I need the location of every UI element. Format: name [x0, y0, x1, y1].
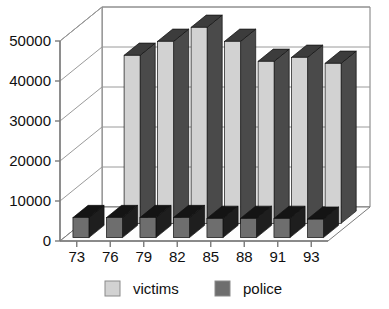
y-axis-label: 50000 — [9, 32, 51, 49]
bar-victims-85 — [225, 29, 256, 223]
legend-swatch-police — [215, 281, 230, 296]
bar-police-82-front — [173, 218, 189, 238]
y-axis-label: 0 — [43, 232, 51, 249]
bar-victims-88 — [258, 49, 289, 223]
x-axis-label: 93 — [303, 248, 320, 265]
x-axis-label: 88 — [236, 248, 253, 265]
bar-victims-85-front — [225, 41, 241, 223]
x-axis-label: 82 — [169, 248, 186, 265]
bar-police-76-front — [106, 218, 122, 238]
bar-victims-79-side — [174, 29, 189, 223]
bar-police-79-front — [140, 218, 156, 238]
bar-victims-82 — [191, 15, 222, 223]
bar-victims-91 — [292, 45, 323, 223]
bar-police-88-front — [240, 218, 256, 237]
x-axis-label: 85 — [202, 248, 219, 265]
bar-victims-88-front — [258, 61, 274, 223]
bar-victims-76-front — [124, 55, 140, 223]
x-axis-label: 79 — [135, 248, 152, 265]
bar-chart-3d: 01000020000300004000050000 7376798285889… — [0, 0, 389, 309]
bar-police-93-front — [307, 219, 323, 237]
x-axis-label: 76 — [102, 248, 119, 265]
bar-victims-76-side — [140, 43, 155, 223]
y-axis-label: 10000 — [9, 192, 51, 209]
x-axis-label: 91 — [269, 248, 286, 265]
bar-victims-85-side — [241, 29, 256, 223]
bar-victims-79-front — [158, 41, 174, 223]
bar-victims-82-front — [191, 27, 207, 223]
bar-victims-93-side — [341, 51, 356, 223]
y-axis-label: 20000 — [9, 152, 51, 169]
bar-police-91-front — [274, 218, 290, 237]
bar-victims-79 — [158, 29, 189, 223]
bar-police-85-front — [207, 218, 223, 237]
chart-canvas: 01000020000300004000050000 7376798285889… — [0, 0, 389, 309]
x-axis-label: 73 — [68, 248, 85, 265]
bar-police-73-front — [73, 218, 89, 238]
y-axis-label: 40000 — [9, 72, 51, 89]
legend-swatch-victims — [105, 281, 120, 296]
bar-victims-91-front — [292, 57, 308, 223]
y-axis-label: 30000 — [9, 112, 51, 129]
bar-victims-91-side — [308, 45, 323, 223]
bar-victims-82-side — [207, 15, 222, 223]
bar-victims-76 — [124, 43, 155, 223]
bar-victims-88-side — [274, 49, 289, 223]
legend-label-victims: victims — [133, 280, 179, 297]
legend-label-police: police — [243, 280, 282, 297]
bar-victims-93 — [325, 51, 356, 223]
bar-victims-93-front — [325, 63, 341, 223]
